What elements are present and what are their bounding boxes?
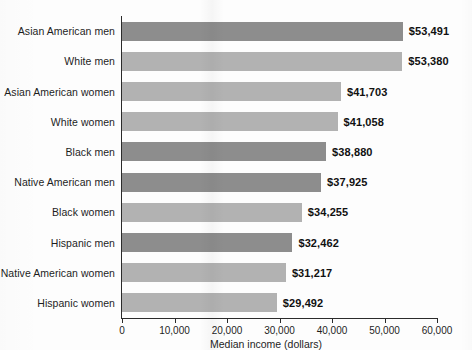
bar-value-label: $53,380: [408, 55, 448, 67]
bar-rect: [122, 112, 338, 131]
bar-value-label: $53,491: [409, 25, 449, 37]
bar-value-label: $31,217: [292, 267, 332, 279]
bar-category-label: Hispanic women: [37, 297, 115, 309]
x-axis-tick: [280, 318, 281, 323]
bar-rect: [122, 142, 326, 161]
bar-value-label: $38,880: [332, 146, 372, 158]
bar-rect: [122, 173, 321, 192]
bar-value-label: $41,703: [347, 86, 387, 98]
bar-value-label: $34,255: [308, 206, 348, 218]
x-axis-tick: [437, 318, 438, 323]
x-axis-title-text: Median income (dollars): [150, 338, 322, 350]
bar-row: Hispanic women$29,492: [122, 293, 437, 312]
x-axis-tick: [122, 318, 123, 323]
bar-row: Native American men$37,925: [122, 173, 437, 192]
bar-category-label: White women: [51, 116, 115, 128]
bar-rect: [122, 52, 402, 71]
bar-rect: [122, 22, 403, 41]
bar-rect: [122, 233, 292, 252]
bar-category-label: Native American women: [1, 267, 115, 279]
bar-category-label: Black men: [66, 146, 115, 158]
x-axis-tick: [175, 318, 176, 323]
x-axis-tick: [227, 318, 228, 323]
bar-value-label: $29,492: [283, 297, 323, 309]
bar-category-label: Asian American men: [18, 25, 115, 37]
x-axis-tick-label: 40,000: [317, 325, 348, 336]
median-income-bar-chart: Asian American men$53,491White men$53,38…: [0, 0, 472, 350]
bar-row: Asian American men$53,491: [122, 22, 437, 41]
x-axis-tick-label: 10,000: [159, 325, 190, 336]
bar-value-label: $37,925: [327, 176, 367, 188]
x-axis-tick-label: 20,000: [212, 325, 243, 336]
x-axis-tick-label: 50,000: [369, 325, 400, 336]
plot-area: Asian American men$53,491White men$53,38…: [122, 16, 437, 318]
bar-category-label: White men: [64, 55, 115, 67]
x-axis-tick: [332, 318, 333, 323]
bar-rect: [122, 263, 286, 282]
bar-category-label: Black women: [52, 206, 115, 218]
x-axis-tick-label: 60,000: [422, 325, 453, 336]
bar-row: Hispanic men$32,462: [122, 233, 437, 252]
bar-rect: [122, 82, 341, 101]
bar-category-label: Native American men: [14, 176, 115, 188]
x-axis-tick: [385, 318, 386, 323]
bar-value-label: $41,058: [344, 116, 384, 128]
bar-row: White men$53,380: [122, 52, 437, 71]
bar-rect: [122, 203, 302, 222]
bar-row: White women$41,058: [122, 112, 437, 131]
x-axis-tick-label: 0: [119, 325, 125, 336]
bar-value-label: $32,462: [298, 237, 338, 249]
bar-row: Asian American women$41,703: [122, 82, 437, 101]
x-axis-title: Median income (dollars): [0, 338, 472, 350]
bar-row: Black men$38,880: [122, 142, 437, 161]
bar-category-label: Asian American women: [4, 86, 115, 98]
bar-row: Black women$34,255: [122, 203, 437, 222]
bar-category-label: Hispanic men: [51, 237, 115, 249]
bar-rect: [122, 293, 277, 312]
bar-row: Native American women$31,217: [122, 263, 437, 282]
x-axis-tick-label: 30,000: [264, 325, 295, 336]
